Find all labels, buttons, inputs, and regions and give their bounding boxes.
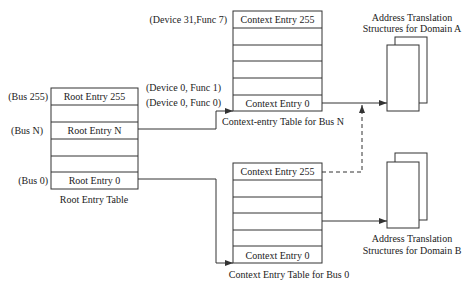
domain-b-title-line1: Address Translation [372, 234, 452, 244]
bus-255-label: (Bus 255) [8, 92, 48, 102]
context-n-entry-0: Context Entry 0 [233, 99, 322, 109]
bus-n-label: (Bus N) [11, 126, 43, 136]
root-entry-table-box [51, 88, 138, 189]
context-0-entry-255: Context Entry 255 [233, 167, 322, 177]
domain-a-title-line1: Address Translation [372, 13, 452, 23]
bus-0-label: (Bus 0) [18, 176, 48, 186]
context-table-0-caption: Context Entry Table for Bus 0 [229, 270, 350, 280]
arrow-root-0-to-context-0 [138, 179, 233, 263]
domain-b-title-line2: Structures for Domain B [363, 246, 462, 256]
arrow-root-n-to-context-n [138, 111, 233, 129]
context-table-bus-n-box [233, 11, 322, 111]
root-entry-255: Root Entry 255 [51, 92, 138, 102]
device-0-func-0-label: (Device 0, Func 0) [146, 98, 221, 108]
context-n-entry-255: Context Entry 255 [233, 15, 322, 25]
domain-b-structures [387, 153, 427, 228]
root-entry-0: Root Entry 0 [51, 176, 138, 186]
root-table-caption: Root Entry Table [60, 195, 129, 205]
context-0-entry-0: Context Entry 0 [233, 251, 322, 261]
device-31-func-7-label: (Device 31,Func 7) [150, 15, 227, 25]
root-entry-n: Root Entry N [51, 126, 138, 136]
context-table-n-caption: Context-entry Table for Bus N [222, 117, 344, 127]
domain-a-structures [387, 37, 427, 111]
domain-a-title-line2: Structures for Domain A [363, 24, 462, 34]
context-table-bus-0-box [233, 163, 322, 263]
device-0-func-1-label: (Device 0, Func 1) [146, 83, 221, 93]
